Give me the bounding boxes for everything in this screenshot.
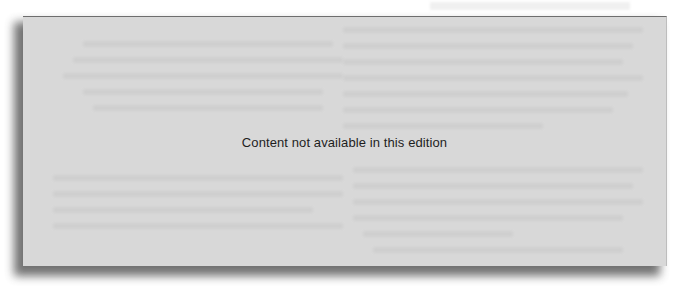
obscured-line <box>53 207 313 213</box>
obscured-line <box>53 175 343 181</box>
obscured-line <box>343 43 633 49</box>
unavailable-content-panel: Content not available in this edition <box>23 16 667 266</box>
obscured-line <box>373 247 623 253</box>
faint-header-text <box>430 2 630 10</box>
obscured-line <box>343 91 628 97</box>
obscured-line <box>353 183 633 189</box>
obscured-line <box>353 199 643 205</box>
obscured-line <box>353 167 643 173</box>
obscured-line <box>63 73 343 79</box>
obscured-line <box>83 89 323 95</box>
obscured-line <box>363 231 513 237</box>
obscured-line <box>53 191 343 197</box>
obscured-line <box>73 57 343 63</box>
obscured-line <box>343 123 543 129</box>
obscured-line <box>53 223 343 229</box>
content-unavailable-notice: Content not available in this edition <box>23 135 666 150</box>
obscured-line <box>343 59 623 65</box>
obscured-line <box>93 105 323 111</box>
obscured-line <box>343 107 613 113</box>
obscured-line <box>343 27 643 33</box>
obscured-line <box>353 215 623 221</box>
obscured-line <box>343 75 643 81</box>
obscured-line <box>83 41 333 47</box>
